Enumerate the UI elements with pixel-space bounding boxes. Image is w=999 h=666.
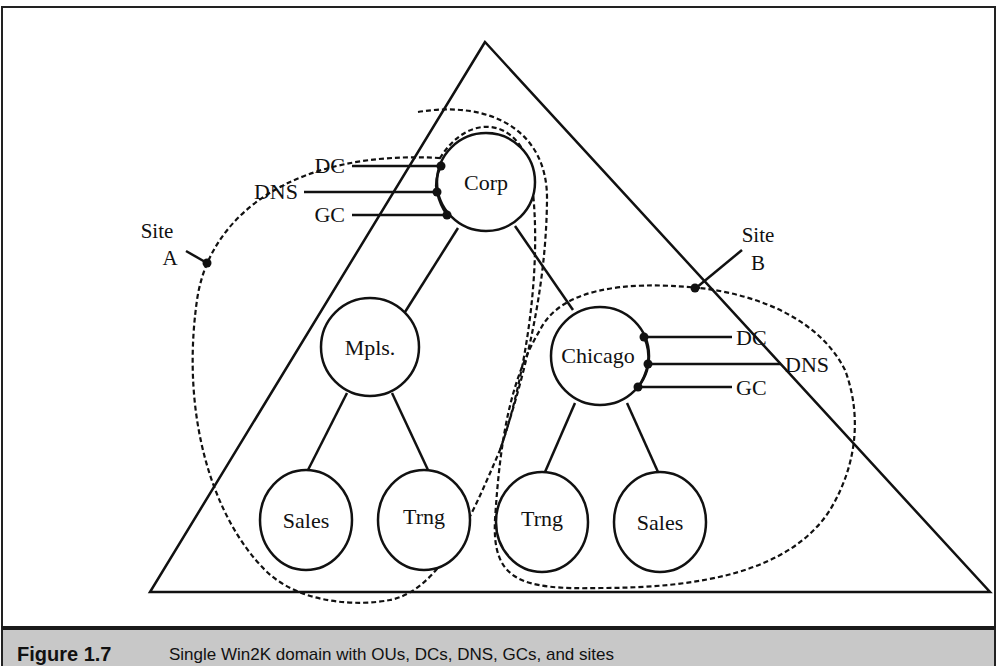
corp-service-gc: GC: [314, 202, 345, 227]
node-label: Sales: [283, 508, 329, 533]
node-chicago-trng[interactable]: Trng: [496, 472, 588, 572]
corp-service-dc: DC: [314, 153, 345, 178]
chicago-service-dc: DC: [736, 325, 767, 350]
svg-text:Site: Site: [742, 223, 775, 247]
node-label: Corp: [464, 170, 508, 195]
node-label: Trng: [521, 506, 563, 531]
svg-text:A: A: [162, 246, 178, 270]
node-corp[interactable]: Corp: [437, 133, 535, 231]
figure-caption-bar: Figure 1.7 Single Win2K domain with OUs,…: [1, 626, 996, 666]
node-chicago[interactable]: Chicago: [551, 307, 649, 405]
chicago-service-gc: GC: [736, 375, 767, 400]
domain-diagram: Corp Mpls. Chicago Sales Trng Trng Sales…: [0, 0, 999, 626]
site-a-label: Site A: [141, 219, 212, 270]
site-b-label: Site B: [691, 223, 775, 293]
node-label: Chicago: [561, 343, 634, 368]
chicago-service-dns: DNS: [785, 352, 829, 377]
node-mpls[interactable]: Mpls.: [321, 298, 419, 396]
figure-number: Figure 1.7: [17, 643, 111, 666]
corp-service-dns: DNS: [254, 179, 298, 204]
node-chicago-sales[interactable]: Sales: [614, 472, 706, 572]
node-mpls-sales[interactable]: Sales: [260, 470, 352, 570]
node-label: Mpls.: [345, 335, 396, 360]
figure-caption: Single Win2K domain with OUs, DCs, DNS, …: [169, 645, 614, 665]
svg-text:Site: Site: [141, 219, 174, 243]
node-label: Sales: [637, 510, 683, 535]
node-label: Trng: [403, 504, 445, 529]
node-mpls-trng[interactable]: Trng: [378, 470, 470, 570]
svg-text:B: B: [751, 251, 765, 275]
